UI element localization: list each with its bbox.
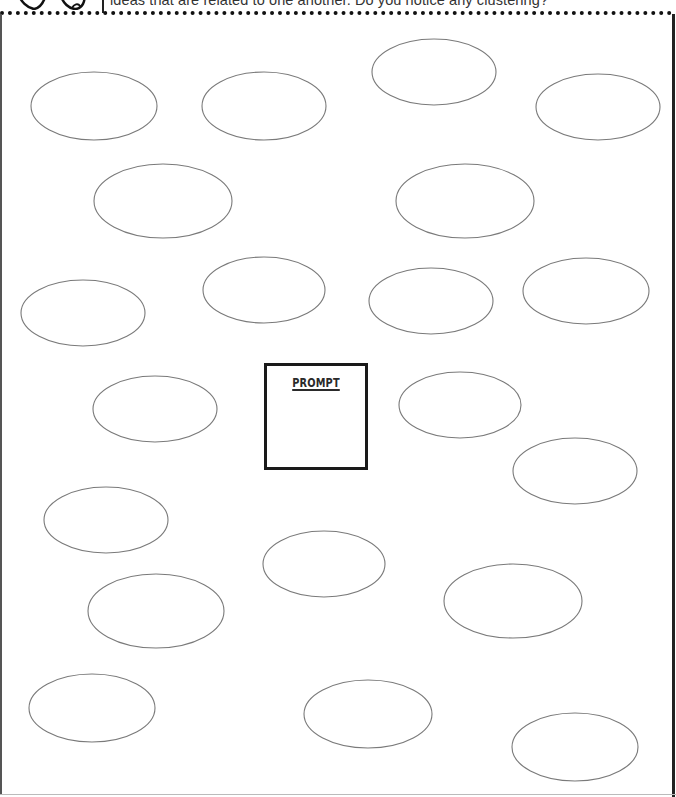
idea-bubble-5[interactable]: [94, 164, 232, 238]
idea-bubble-18[interactable]: [29, 674, 155, 742]
idea-bubble-14[interactable]: [44, 487, 168, 553]
idea-bubble-10[interactable]: [523, 258, 649, 324]
idea-bubble-16[interactable]: [88, 574, 224, 648]
idea-bubble-7[interactable]: [203, 257, 325, 323]
idea-bubble-6[interactable]: [396, 164, 534, 238]
idea-bubble-3[interactable]: [372, 39, 496, 105]
idea-bubble-12[interactable]: [399, 372, 521, 438]
idea-bubble-15[interactable]: [263, 531, 385, 597]
idea-bubble-8[interactable]: [21, 280, 145, 346]
idea-bubble-11[interactable]: [93, 376, 217, 442]
idea-bubble-19[interactable]: [304, 680, 432, 748]
idea-bubble-2[interactable]: [202, 72, 326, 140]
prompt-box[interactable]: PROMPT: [264, 363, 368, 470]
prompt-label: PROMPT: [274, 376, 357, 390]
idea-bubble-13[interactable]: [513, 438, 637, 504]
idea-bubble-9[interactable]: [369, 268, 493, 334]
idea-bubble-20[interactable]: [512, 713, 638, 781]
idea-bubble-17[interactable]: [444, 564, 582, 638]
idea-bubble-1[interactable]: [31, 72, 157, 140]
idea-bubble-4[interactable]: [536, 74, 660, 140]
